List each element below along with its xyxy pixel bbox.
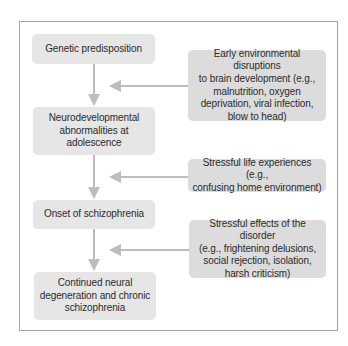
box-label: Continued neural degeneration and chroni… (40, 277, 150, 315)
box-neurodevelopmental-abnormalities: Neurodevelopmental abnormalities at adol… (33, 107, 155, 155)
box-label: Onset of schizophrenia (44, 208, 144, 221)
box-onset-of-schizophrenia: Onset of schizophrenia (33, 200, 155, 229)
box-label: Genetic predisposition (45, 43, 142, 56)
box-label: Stressful effects of the disorder (e.g.,… (193, 218, 322, 281)
box-continued-degeneration: Continued neural degeneration and chroni… (34, 272, 156, 320)
box-label: Stressful life experiences (e.g., confus… (192, 157, 322, 195)
box-genetic-predisposition: Genetic predisposition (32, 34, 155, 64)
box-label: Early environmental disruptions to brain… (192, 48, 322, 124)
box-stressful-life-experiences: Stressful life experiences (e.g., confus… (188, 159, 326, 192)
box-label: Neurodevelopmental abnormalities at adol… (49, 112, 139, 150)
box-stressful-effects-of-disorder: Stressful effects of the disorder (e.g.,… (189, 220, 326, 278)
box-early-environmental-disruptions: Early environmental disruptions to brain… (188, 50, 326, 121)
